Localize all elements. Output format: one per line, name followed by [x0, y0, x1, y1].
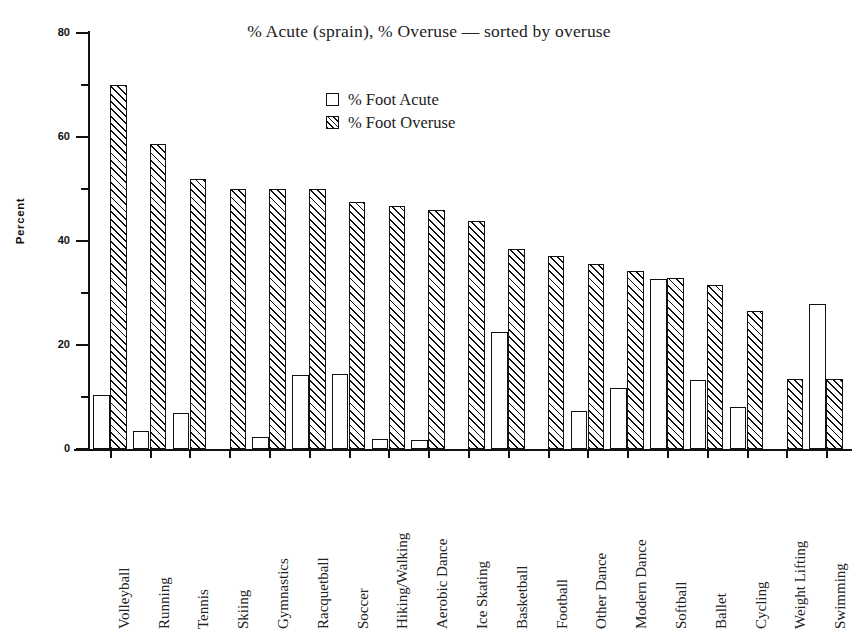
y-tick-minor [81, 396, 88, 398]
x-axis-label: Modern Dance [633, 539, 650, 629]
y-axis-title: Percent [14, 198, 26, 244]
y-tick-major [76, 136, 88, 138]
bar-group [451, 33, 485, 449]
x-axis-label: Basketball [514, 566, 531, 629]
bar-overuse [747, 311, 764, 449]
bar-acute [372, 439, 389, 449]
x-tick [468, 451, 470, 458]
bar-overuse [190, 179, 207, 449]
bar-overuse [309, 189, 326, 449]
bar-overuse [428, 210, 445, 449]
x-axis-label: Soccer [355, 588, 372, 629]
bar-acute [690, 380, 707, 449]
x-tick [349, 451, 351, 458]
x-axis-label: Aerobic Dance [434, 539, 451, 629]
bar-group [770, 33, 804, 449]
x-tick [388, 451, 390, 458]
y-tick-major [76, 32, 88, 34]
y-tick-label: 60 [40, 130, 70, 142]
bar-group [491, 33, 525, 449]
bar-acute [332, 374, 349, 449]
bar-overuse [787, 379, 804, 449]
x-tick [428, 451, 430, 458]
x-axis-label: Football [554, 579, 571, 629]
bar-group [133, 33, 167, 449]
x-axis-label: Ballet [713, 593, 730, 629]
x-axis-label: Softball [673, 582, 690, 630]
bar-overuse [269, 189, 286, 449]
bar-group [690, 33, 724, 449]
y-tick-major [76, 448, 88, 450]
x-tick [110, 451, 112, 458]
x-tick [587, 451, 589, 458]
bar-group [292, 33, 326, 449]
x-tick [667, 451, 669, 458]
bar-acute [730, 407, 747, 449]
y-tick-minor [81, 84, 88, 86]
x-tick [189, 451, 191, 458]
y-tick-major [76, 240, 88, 242]
bar-overuse [468, 221, 485, 449]
x-tick [508, 451, 510, 458]
bar-acute [571, 411, 588, 449]
x-axis-label: Other Dance [593, 553, 610, 629]
x-axis-label: Swimming [832, 563, 849, 629]
bar-overuse [150, 144, 167, 449]
bar-chart-figure: % Acute (sprain), % Overuse — sorted by … [0, 0, 858, 636]
bar-acute [292, 375, 309, 449]
y-tick-minor [81, 292, 88, 294]
x-axis-label: Tennis [195, 589, 212, 629]
bar-overuse [667, 278, 684, 449]
bar-acute [411, 440, 428, 449]
x-tick [150, 451, 152, 458]
x-tick [309, 451, 311, 458]
bar-group [332, 33, 366, 449]
bar-group [650, 33, 684, 449]
bar-group [93, 33, 127, 449]
x-axis-label: Cycling [753, 582, 770, 630]
x-tick [548, 451, 550, 458]
y-tick-label: 40 [40, 234, 70, 246]
x-tick [627, 451, 629, 458]
x-axis-label: Running [156, 577, 173, 629]
y-tick-minor [81, 188, 88, 190]
bar-overuse [349, 202, 366, 449]
bar-overuse [110, 85, 127, 449]
bar-group [610, 33, 644, 449]
y-tick-label: 80 [40, 26, 70, 38]
bar-acute [610, 388, 627, 449]
x-axis-label: Hiking/Walking [394, 533, 411, 629]
bar-overuse [627, 271, 644, 449]
x-axis-label: Skiing [235, 590, 252, 629]
bar-acute [133, 431, 150, 449]
bar-overuse [588, 264, 605, 449]
bar-group [372, 33, 406, 449]
bar-overuse [389, 206, 406, 449]
x-axis-label: Racquetball [315, 557, 332, 629]
bar-group [411, 33, 445, 449]
bar-acute [491, 332, 508, 449]
x-axis-label: Volleyball [116, 568, 133, 629]
bar-overuse [230, 189, 247, 449]
bar-group [173, 33, 207, 449]
y-axis-line [88, 31, 90, 451]
bar-overuse [548, 256, 565, 449]
y-tick-label: 0 [40, 442, 70, 454]
bar-acute [93, 395, 110, 449]
bar-group [571, 33, 605, 449]
x-axis-label: Gymnastics [275, 558, 292, 629]
bar-overuse [508, 249, 525, 449]
x-tick [747, 451, 749, 458]
y-tick-major [76, 344, 88, 346]
bar-group [252, 33, 286, 449]
y-tick-label: 20 [40, 338, 70, 350]
x-axis-label: Weight Lifting [792, 541, 809, 629]
bar-acute [173, 413, 190, 449]
bar-group [213, 33, 247, 449]
x-tick [786, 451, 788, 458]
bar-group [809, 33, 843, 449]
bar-acute [809, 304, 826, 449]
x-axis-label: Ice Skating [474, 561, 491, 629]
bar-overuse [826, 379, 843, 449]
bar-group [730, 33, 764, 449]
